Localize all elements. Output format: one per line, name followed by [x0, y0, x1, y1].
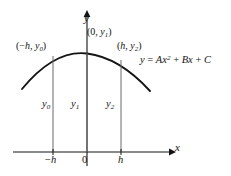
- equation-plus-1: +: [171, 54, 182, 65]
- tick-label-zero: 0: [82, 155, 87, 166]
- paren-close-left: ): [43, 40, 46, 51]
- equation-plus-2: +: [193, 54, 204, 65]
- y-axis-label: y: [84, 13, 89, 24]
- x-axis-label: x: [175, 142, 180, 153]
- ordinate-index-2: 2: [111, 103, 115, 111]
- figure-graphics: [0, 0, 231, 176]
- parabola-curve: [22, 53, 150, 91]
- equation-coeff-c: C: [204, 54, 211, 65]
- ordinate-index-0: 0: [47, 103, 51, 111]
- equation-equals: =: [145, 54, 156, 65]
- parabola-figure: y x (−h, y0) (0, y1) (h, y2) y = Ax2 + B…: [0, 0, 231, 176]
- paren-close-middle: ): [108, 26, 111, 37]
- point-label-left: (−h, y0): [16, 41, 46, 52]
- tick-label-positive-h: h: [118, 155, 123, 166]
- tick-label-negative-h: −h: [45, 155, 56, 166]
- point-label-middle: (0, y1): [87, 27, 112, 38]
- tick-h-symbol-left: h: [51, 154, 56, 165]
- curve-equation-label: y = Ax2 + Bx + C: [140, 55, 211, 66]
- ordinate-label-y1: y1: [71, 99, 79, 111]
- ordinate-label-y2: y2: [106, 99, 114, 111]
- paren-close-right: ): [138, 40, 141, 51]
- point-label-right: (h, y2): [117, 41, 142, 52]
- ordinate-index-1: 1: [76, 103, 80, 111]
- ordinate-label-y0: y0: [42, 99, 50, 111]
